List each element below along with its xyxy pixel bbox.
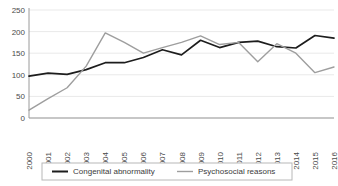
legend-label-1: Congenital abnormality xyxy=(73,167,155,176)
x-tick-label: 2016 xyxy=(330,151,338,169)
y-axis-tick-labels: 050100150200250 xyxy=(12,6,26,123)
x-tick-label: 2000 xyxy=(25,151,34,169)
series-line-1 xyxy=(29,35,334,76)
y-tick-label: 100 xyxy=(12,71,26,80)
y-tick-label: 50 xyxy=(16,92,25,101)
y-tick-label: 150 xyxy=(12,49,26,58)
line-chart: 050100150200250 200020012002200320042005… xyxy=(0,0,338,186)
chart-canvas: 050100150200250 200020012002200320042005… xyxy=(0,0,338,186)
y-tick-label: 200 xyxy=(12,28,26,37)
chart-legend: Congenital abnormalityPsychosocial reaso… xyxy=(42,163,292,180)
gridlines-group xyxy=(29,10,334,118)
series-group xyxy=(29,33,334,110)
series-line-2 xyxy=(29,33,334,110)
x-tick-label: 2015 xyxy=(311,151,320,169)
legend-label-2: Psychosocial reasons xyxy=(198,167,275,176)
x-tick-label: 2014 xyxy=(292,151,301,169)
y-tick-label: 0 xyxy=(21,114,26,123)
axis-lines xyxy=(29,8,334,118)
y-tick-label: 250 xyxy=(12,6,26,15)
